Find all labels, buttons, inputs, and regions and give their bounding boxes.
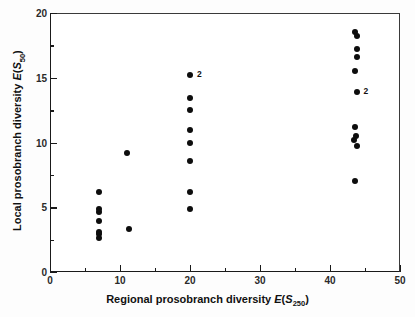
y-tick-major — [50, 78, 57, 79]
x-tick-major — [120, 265, 121, 272]
x-axis-title-s: S — [285, 293, 292, 305]
y-tick-minor — [50, 110, 54, 111]
x-tick-label: 20 — [184, 275, 195, 286]
x-axis-title-text: Regional prosobranch diversity — [106, 293, 274, 305]
data-point — [353, 133, 359, 139]
y-tick-label: 15 — [36, 72, 47, 83]
y-tick-label: 10 — [36, 137, 47, 148]
x-tick-label: 0 — [47, 275, 53, 286]
x-tick-label: 30 — [254, 275, 265, 286]
y-axis-title: Local prosobranch diversity E(S50) — [11, 6, 26, 276]
y-tick-major — [50, 207, 57, 208]
x-axis-title-subscript: 250 — [293, 299, 306, 308]
data-point — [354, 89, 360, 95]
x-tick-minor — [295, 268, 296, 272]
y-tick-label: 0 — [41, 267, 47, 278]
y-axis-title-subscript: 50 — [18, 54, 27, 62]
y-tick-label: 20 — [36, 8, 47, 19]
y-tick-minor — [50, 240, 54, 241]
y-axis-title-paren-open: ( — [11, 70, 23, 74]
x-tick-major — [50, 265, 51, 272]
y-tick-major — [50, 272, 57, 273]
y-axis-title-paren-close: ) — [11, 50, 23, 54]
data-point — [96, 229, 102, 235]
x-tick-label: 10 — [114, 275, 125, 286]
data-point — [124, 150, 130, 156]
y-tick-major — [50, 143, 57, 144]
data-point — [96, 189, 102, 195]
y-axis-title-text: Local prosobranch diversity — [11, 81, 23, 231]
y-axis-title-s: S — [11, 62, 23, 69]
y-axis-title-var: E — [11, 73, 23, 80]
duplicate-count-label: 2 — [197, 69, 202, 79]
x-axis-title-paren-close: ) — [305, 293, 309, 305]
x-axis-title: Regional prosobranch diversity E(S250) — [0, 293, 415, 308]
data-point — [352, 68, 358, 74]
x-tick-minor — [365, 268, 366, 272]
data-point — [187, 206, 193, 212]
data-point — [187, 189, 193, 195]
data-point — [187, 127, 193, 133]
x-tick-label: 50 — [394, 275, 405, 286]
plot-area — [50, 13, 400, 272]
y-tick-label: 5 — [41, 202, 47, 213]
y-tick-minor — [50, 175, 54, 176]
x-tick-label: 40 — [324, 275, 335, 286]
x-axis-title-var: E — [274, 293, 281, 305]
x-tick-major — [260, 265, 261, 272]
y-tick-minor — [50, 45, 54, 46]
data-point — [187, 140, 193, 146]
x-tick-minor — [225, 268, 226, 272]
figure-canvas: 22 05101520 01020304050 Regional prosobr… — [0, 0, 415, 317]
x-tick-major — [330, 265, 331, 272]
x-tick-major — [400, 265, 401, 272]
x-tick-minor — [155, 268, 156, 272]
y-tick-major — [50, 13, 57, 14]
data-point — [354, 143, 360, 149]
data-point — [96, 206, 102, 212]
x-tick-major — [190, 265, 191, 272]
duplicate-count-label: 2 — [364, 86, 369, 96]
data-point — [187, 158, 193, 164]
x-tick-minor — [85, 268, 86, 272]
